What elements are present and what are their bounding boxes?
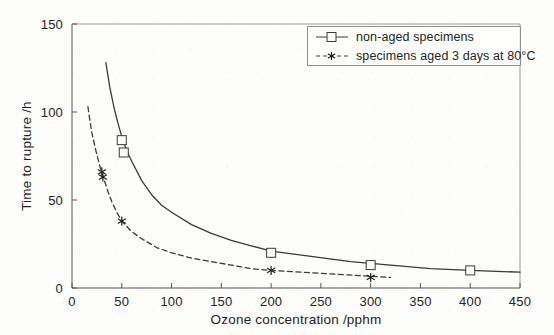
data-point-marker: [119, 148, 128, 157]
series-1: [106, 63, 520, 275]
x-tick-label: 250: [310, 294, 332, 309]
series-curve: [88, 107, 391, 278]
legend-entry-non-aged: non-aged specimens: [308, 27, 520, 47]
chart-legend: non-aged specimens specimens aged 3 days…: [307, 26, 521, 66]
y-axis-title: Time to rupture /h: [19, 101, 34, 211]
star-marker-icon: [314, 46, 354, 66]
x-axis-title: Ozone concentration /pphm: [211, 312, 382, 327]
x-tick-label: 0: [68, 294, 75, 309]
x-tick-label: 400: [459, 294, 481, 309]
legend-entry-aged: specimens aged 3 days at 80°C: [308, 46, 520, 66]
x-tick-label: 200: [260, 294, 282, 309]
x-tick-label: 450: [509, 294, 531, 309]
data-point-marker: [466, 266, 475, 275]
series-curve: [106, 63, 520, 272]
square-marker-icon: [314, 27, 354, 47]
x-tick-label: 100: [160, 294, 182, 309]
chart-figure: 050100150200250300350400450050100150 Ozo…: [0, 0, 554, 335]
data-point-marker: [267, 248, 276, 257]
legend-label-aged: specimens aged 3 days at 80°C: [356, 49, 536, 63]
y-tick-label: 0: [0, 281, 63, 296]
x-tick-label: 350: [409, 294, 431, 309]
series-2: [88, 107, 391, 282]
x-tick-label: 300: [360, 294, 382, 309]
data-point-marker: [367, 273, 375, 282]
data-point-marker: [117, 136, 126, 145]
data-point-marker: [366, 261, 375, 270]
data-series-layer: [88, 63, 520, 282]
x-tick-label: 150: [210, 294, 232, 309]
x-tick-label: 50: [114, 294, 129, 309]
legend-label-non-aged: non-aged specimens: [356, 30, 474, 44]
y-tick-label: 150: [0, 17, 63, 32]
